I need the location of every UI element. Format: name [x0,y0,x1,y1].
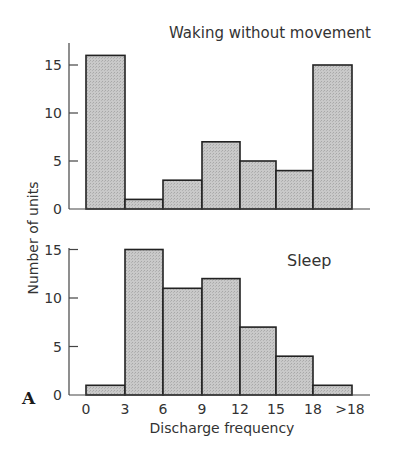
top-bar [163,180,202,209]
x-tick-label: 9 [198,401,207,417]
bottom-bar [163,288,202,395]
bottom-panel: Sleep 051015 0369121518>18 [44,242,370,418]
x-tick-label: 15 [267,401,285,417]
histogram-figure: Waking without movement 051015 Sleep 051… [0,0,395,462]
y-axis-label: Number of units [25,181,41,294]
bottom-bar [313,385,352,395]
top-y-tick-label: 5 [53,153,62,169]
bottom-bar [202,279,240,395]
top-y-tick-label: 0 [53,201,62,217]
bottom-y-tick-label: 15 [44,242,62,258]
top-bar [202,142,240,209]
top-chart-title: Waking without movement [169,24,371,42]
top-bar [125,199,163,209]
top-panel: Waking without movement 051015 [44,24,371,217]
bottom-bar [125,250,163,396]
x-tick-label: 18 [304,401,322,417]
top-y-tick-label: 10 [44,105,62,121]
x-axis-label: Discharge frequency [150,420,295,436]
top-bar [240,161,276,209]
top-bar [313,65,352,209]
x-tick-label: 12 [231,401,249,417]
top-bar [86,55,125,209]
x-tick-label: 0 [82,401,91,417]
bottom-y-tick-label: 0 [53,387,62,403]
x-tick-label: 3 [121,401,130,417]
x-tick-label: >18 [335,401,365,417]
bottom-y-tick-label: 5 [53,339,62,355]
top-bar [276,171,313,209]
bottom-bar [86,385,125,395]
top-y-tick-label: 15 [44,57,62,73]
bottom-bars [86,250,352,396]
panel-letter: A [21,388,36,408]
bottom-y-tick-label: 10 [44,290,62,306]
bottom-bar [276,356,313,395]
bottom-bar [240,327,276,395]
top-bars [86,55,352,209]
x-tick-label: 6 [159,401,168,417]
bottom-chart-title: Sleep [287,251,331,270]
bottom-x-tick-labels: 0369121518>18 [82,401,365,417]
